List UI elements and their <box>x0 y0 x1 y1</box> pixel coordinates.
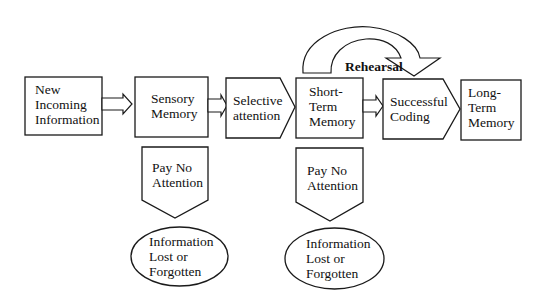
block-arrow-1 <box>102 94 132 114</box>
memory-model-diagram <box>0 0 545 308</box>
label-selective-attention: Selective attention <box>233 93 282 123</box>
label-information-lost-2: Information Lost or Forgotten <box>306 236 370 281</box>
label-new-incoming-information: New Incoming Information <box>35 82 99 127</box>
block-arrow-2 <box>208 95 227 116</box>
label-information-lost-1: Information Lost or Forgotten <box>149 234 213 279</box>
label-short-term-memory: Short- Term Memory <box>309 84 356 129</box>
label-sensory-memory: Sensory Memory <box>151 91 198 121</box>
block-arrow-3 <box>363 96 383 116</box>
label-successful-coding: Successful Coding <box>390 94 448 124</box>
label-long-term-memory: Long- Term Memory <box>468 85 515 130</box>
label-pay-no-attention-1: Pay No Attention <box>152 160 203 190</box>
label-pay-no-attention-2: Pay No Attention <box>307 163 358 193</box>
label-rehearsal: Rehearsal <box>345 59 403 74</box>
